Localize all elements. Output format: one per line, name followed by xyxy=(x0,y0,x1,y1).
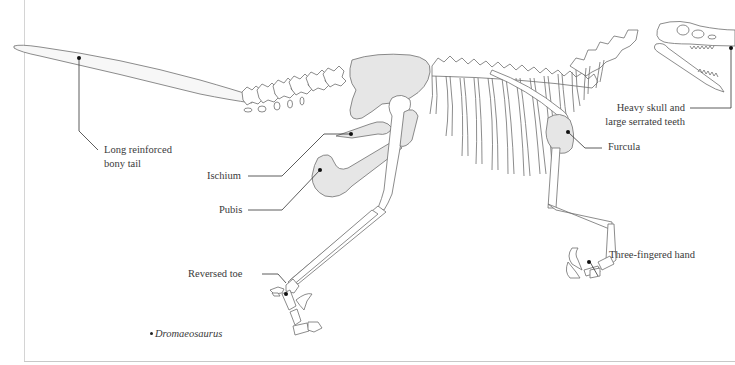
skull xyxy=(654,21,735,92)
dorsal-vertebrae xyxy=(432,30,638,88)
label-skull-line2: large serrated teeth xyxy=(605,115,685,129)
species-caption: Dromaeosaurus xyxy=(150,328,222,339)
foot-bones xyxy=(270,279,322,335)
dromaeosaurus-skeleton xyxy=(0,0,735,365)
label-pubis: Pubis xyxy=(219,203,242,217)
label-furcula: Furcula xyxy=(608,140,640,154)
species-name: Dromaeosaurus xyxy=(155,328,222,339)
humerus xyxy=(548,148,560,208)
bullet-icon xyxy=(150,332,153,335)
ischium xyxy=(336,122,392,138)
label-skull-line1: Heavy skull and xyxy=(605,101,685,115)
label-hand: Three-fingered hand xyxy=(609,248,695,262)
label-ischium: Ischium xyxy=(207,169,241,183)
caudal-vertebrae xyxy=(242,66,346,112)
label-tail-line2: bony tail xyxy=(104,157,172,171)
diagram-frame: Long reinforced bony tail Ischium Pubis … xyxy=(0,0,735,365)
label-ischium-text: Ischium xyxy=(207,170,241,181)
label-skull: Heavy skull and large serrated teeth xyxy=(605,101,685,129)
label-tail-line1: Long reinforced xyxy=(104,143,172,157)
label-furcula-text: Furcula xyxy=(608,141,640,152)
tail-bone xyxy=(14,45,252,103)
fibula xyxy=(288,210,378,286)
label-pubis-text: Pubis xyxy=(219,204,242,215)
label-hand-text: Three-fingered hand xyxy=(609,249,695,260)
forearm xyxy=(548,204,612,230)
label-tail: Long reinforced bony tail xyxy=(104,143,172,171)
label-reversed-toe-text: Reversed toe xyxy=(188,268,243,279)
label-reversed-toe: Reversed toe xyxy=(188,267,243,281)
